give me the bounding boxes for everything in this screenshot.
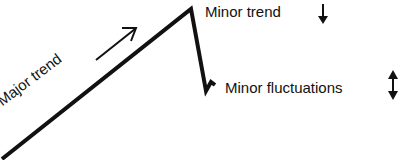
arrow-down-icon bbox=[318, 4, 328, 24]
minor-trend-label: Minor trend bbox=[205, 3, 281, 20]
minor-fluctuations-label: Minor fluctuations bbox=[225, 79, 343, 96]
arrow-up-down-icon bbox=[388, 70, 398, 100]
